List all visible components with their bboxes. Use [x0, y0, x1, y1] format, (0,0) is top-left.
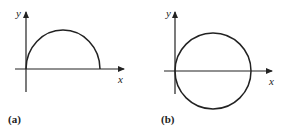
x-axis-label: x: [268, 75, 274, 87]
panel-caption-b: (b): [161, 113, 175, 126]
figure: y x (a) y x (b): [0, 0, 288, 132]
panel-b: y x (b): [161, 7, 274, 126]
y-axis-label: y: [165, 7, 171, 19]
panel-a: y x (a): [8, 7, 124, 126]
y-axis-label: y: [15, 7, 21, 19]
panel-caption-a: (a): [8, 113, 21, 126]
semicircle-curve: [26, 30, 100, 69]
x-axis-label: x: [117, 73, 123, 85]
